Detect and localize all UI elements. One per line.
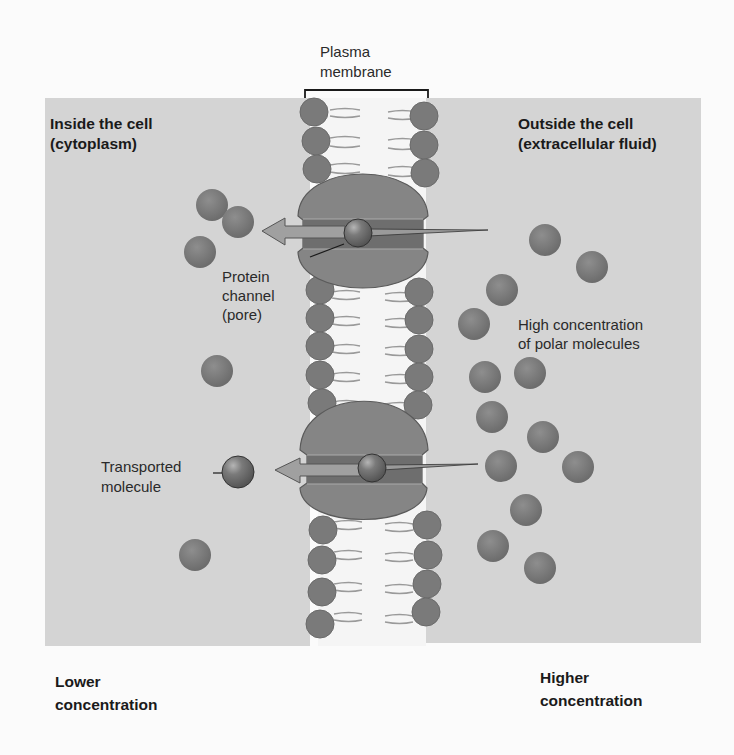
protein-channel-top [262,174,488,288]
transported-molecule-labelled [213,456,254,488]
transported-molecule [344,219,372,247]
protein-channel-bottom [275,401,478,519]
plasma-membrane-label: Plasma membrane [320,42,392,81]
polar-molecules-outside [458,224,608,584]
lower-concentration-label: Lower concentration [55,670,157,717]
protein-channel-label: Protein channel (pore) [222,268,275,324]
transported-molecule [358,454,386,482]
higher-concentration-label: Higher concentration [540,666,642,713]
inside-cell-label: Inside the cell (cytoplasm) [50,114,153,154]
transported-molecule-label: Transported molecule [101,457,181,496]
outside-cell-label: Outside the cell (extracellular fluid) [518,114,657,154]
membrane-bracket [305,90,428,98]
high-concentration-label: High concentration of polar molecules [518,316,643,354]
polar-molecules-inside [179,189,254,571]
